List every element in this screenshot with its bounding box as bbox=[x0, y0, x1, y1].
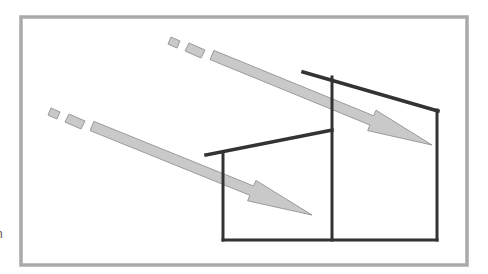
arrow-dash bbox=[48, 108, 60, 119]
diagram-frame bbox=[21, 17, 467, 265]
arrow-dash bbox=[168, 37, 180, 48]
sun-ray-arrows bbox=[48, 37, 432, 215]
lower-roof bbox=[206, 130, 332, 155]
building-sunlight-diagram bbox=[0, 0, 488, 274]
arrow-icon bbox=[90, 121, 312, 215]
arrow-dash bbox=[65, 114, 85, 129]
lower-sun-ray bbox=[48, 108, 312, 215]
arrow-dash bbox=[185, 43, 205, 58]
upper-sun-ray bbox=[168, 37, 432, 145]
